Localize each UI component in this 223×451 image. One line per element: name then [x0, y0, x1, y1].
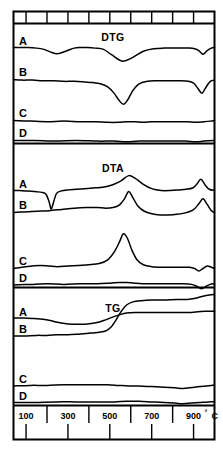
curve-dtg-a — [14, 47, 215, 61]
axis-unit-label: ° — [205, 409, 208, 416]
curve-label-dtg-a: A — [19, 35, 27, 47]
curve-label-tg-c: C — [19, 373, 27, 385]
axis-label-300: 300 — [60, 411, 75, 421]
curve-dta-c — [14, 234, 215, 271]
plot-canvas: DTG DTA TG A B C D A B C D A B C D 10030… — [0, 0, 223, 451]
curve-label-dtg-c: C — [19, 107, 27, 119]
axis-label-100: 100 — [19, 411, 34, 421]
curve-label-dta-a: A — [19, 178, 27, 190]
top-tick-marks — [26, 12, 194, 24]
curve-dta-b — [14, 191, 215, 215]
axis-unit-celsius: C — [212, 411, 219, 421]
axis-label-900: 900 — [186, 411, 201, 421]
curve-dta-a — [14, 176, 215, 210]
curve-tg-c — [14, 385, 215, 389]
curve-dtg-b — [14, 80, 215, 105]
figure-frame — [14, 12, 215, 440]
curve-tg-b — [14, 294, 215, 336]
panel-title-tg: TG — [105, 302, 120, 314]
curve-label-dtg-b: B — [19, 66, 27, 78]
curve-dtg-d — [14, 140, 215, 141]
curves-layer — [14, 47, 215, 403]
panel-title-dtg: DTG — [101, 31, 124, 43]
curve-label-dtg-d: D — [19, 127, 27, 139]
curve-tg-d — [14, 401, 215, 404]
curve-label-dta-d: D — [19, 272, 27, 284]
curve-label-tg-d: D — [19, 390, 27, 402]
panel-title-dta: DTA — [102, 162, 124, 174]
curve-label-dta-b: B — [19, 199, 27, 211]
axis-tick-labels: 100300500700900 — [19, 411, 202, 421]
curve-label-tg-a: A — [19, 306, 27, 318]
curve-label-dta-c: C — [19, 255, 27, 267]
curve-label-tg-b: B — [19, 323, 27, 335]
axis-label-500: 500 — [102, 411, 117, 421]
curve-dtg-c — [14, 121, 215, 123]
thermal-analysis-figure: DTG DTA TG A B C D A B C D A B C D 10030… — [0, 0, 223, 451]
axis-label-700: 700 — [144, 411, 159, 421]
